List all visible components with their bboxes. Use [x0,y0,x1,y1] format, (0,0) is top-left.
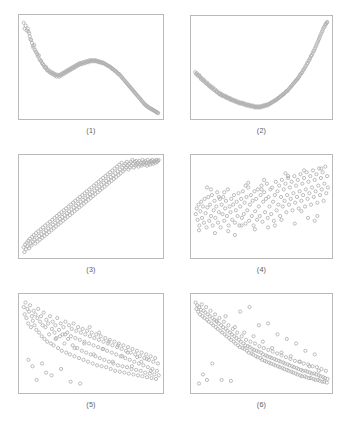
scatter-plot-6[interactable] [190,293,333,394]
six-panel-scatterplot-figure: (1)(2)(3)(4)(5)(6) [0,0,345,429]
panel-caption-6: (6) [190,400,333,410]
scatter-points-layer-2 [191,16,332,119]
scatter-points-layer-3 [19,155,163,258]
scatter-plot-1[interactable] [18,14,164,120]
scatter-points-layer-1 [19,15,163,119]
scatter-points-layer-4 [191,155,332,258]
scatter-plot-4[interactable] [190,154,333,259]
panel-caption-2: (2) [190,126,333,136]
panel-caption-1: (1) [18,126,164,136]
panel-caption-4: (4) [190,265,333,275]
scatter-points-layer-5 [19,294,163,393]
scatter-points-layer-6 [191,294,332,393]
panel-grid: (1)(2)(3)(4)(5)(6) [0,0,345,429]
scatter-plot-3[interactable] [18,154,164,259]
scatter-plot-5[interactable] [18,293,164,394]
scatter-plot-2[interactable] [190,15,333,120]
panel-caption-5: (5) [18,400,164,410]
panel-caption-3: (3) [18,265,164,275]
